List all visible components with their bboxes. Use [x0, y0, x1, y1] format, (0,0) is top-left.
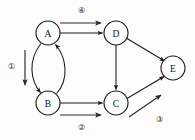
node-d-label: D	[113, 29, 120, 39]
node-c-label: C	[113, 99, 119, 109]
node-group: A B C D E	[36, 21, 185, 115]
edge-b-to-a	[56, 45, 66, 94]
node-d[interactable]: D	[104, 21, 128, 45]
annotation-2-label: ②	[78, 123, 85, 132]
edge-c-to-e	[127, 77, 164, 99]
edge-a-to-b	[32, 44, 41, 93]
node-c[interactable]: C	[104, 91, 128, 115]
annotation-group: ④ ① ② ③	[8, 6, 163, 132]
graph-svg: A B C D E ④	[0, 0, 195, 140]
edge-d-to-e	[127, 39, 165, 62]
node-a[interactable]: A	[36, 21, 60, 45]
node-e-label: E	[170, 64, 176, 74]
node-a-label: A	[45, 29, 52, 39]
annotation-4-label: ④	[78, 6, 85, 15]
annotation-3-label: ③	[156, 115, 163, 124]
node-b-label: B	[45, 99, 51, 109]
node-e[interactable]: E	[161, 56, 185, 80]
annotation-1-label: ①	[8, 62, 15, 71]
diagram-canvas: A B C D E ④	[0, 0, 195, 140]
node-b[interactable]: B	[36, 91, 60, 115]
